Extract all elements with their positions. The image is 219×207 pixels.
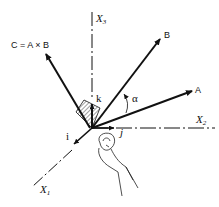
vector-c [46, 54, 90, 128]
x1-axis [32, 150, 72, 187]
unit-vector-i-label: i [66, 130, 69, 142]
x2-axis-label: X2 [195, 113, 207, 127]
right-hand-curl-icon [99, 133, 138, 196]
x3-axis-label: X3 [95, 12, 107, 26]
unit-vector-i [74, 128, 92, 144]
vector-a-label: A [195, 85, 201, 95]
angle-arc [124, 94, 128, 113]
cross-product-diagram: X3 X2 X1 C = A × B B A k j i α [0, 0, 219, 207]
vector-c-label: C = A × B [11, 40, 49, 50]
x1-axis-label: X1 [39, 183, 50, 197]
unit-vector-k-label: k [96, 92, 102, 104]
angle-alpha-label: α [132, 92, 138, 104]
vector-b-label: B [164, 30, 170, 40]
